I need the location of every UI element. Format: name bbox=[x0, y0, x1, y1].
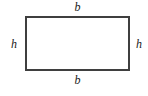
rectangle-figure: b h h b bbox=[0, 0, 148, 96]
rectangle-outline bbox=[25, 16, 130, 71]
label-right-height: h bbox=[131, 38, 147, 50]
label-left-height: h bbox=[6, 38, 22, 50]
label-top-base: b bbox=[25, 1, 130, 13]
label-bottom-base: b bbox=[25, 74, 130, 86]
